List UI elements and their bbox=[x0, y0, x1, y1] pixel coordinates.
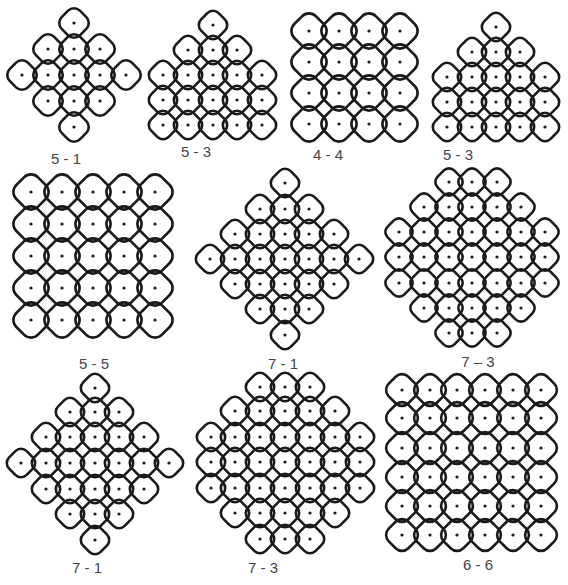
kolam-dot bbox=[495, 255, 498, 258]
kolam-pattern bbox=[145, 7, 279, 142]
kolam-dot bbox=[428, 446, 431, 449]
kolam-dot bbox=[211, 73, 214, 76]
kolam-dot bbox=[400, 504, 403, 507]
kolam-dot bbox=[494, 75, 497, 78]
kolam-dot bbox=[233, 409, 236, 412]
kolam-dot bbox=[29, 286, 32, 289]
kolam-dot bbox=[29, 318, 32, 321]
kolam-dot bbox=[68, 410, 71, 413]
kolam-dot bbox=[153, 286, 156, 289]
kolam-dot bbox=[511, 504, 514, 507]
kolam-dot bbox=[186, 48, 189, 51]
kolam-dot bbox=[483, 504, 486, 507]
kolam-dot bbox=[400, 388, 403, 391]
kolam-dot bbox=[44, 461, 47, 464]
kolam-dot bbox=[93, 512, 96, 515]
kolam-dot bbox=[29, 222, 32, 225]
kolam-dot bbox=[46, 47, 49, 50]
kolam-dot bbox=[117, 435, 120, 438]
kolam-dot bbox=[186, 98, 189, 101]
kolam-dot bbox=[445, 125, 448, 128]
kolam-dot bbox=[153, 318, 156, 321]
kolam-dot bbox=[447, 281, 450, 284]
kolam-dot bbox=[91, 254, 94, 257]
kolam-dot bbox=[46, 73, 49, 76]
kolam-label: 5 - 3 bbox=[443, 146, 473, 163]
kolam-dot bbox=[495, 230, 498, 233]
kolam-dot bbox=[46, 99, 49, 102]
kolam-dot bbox=[308, 435, 311, 438]
kolam-dot bbox=[307, 232, 310, 235]
kolam-label: 6 - 6 bbox=[463, 556, 493, 573]
kolam-dot bbox=[93, 487, 96, 490]
kolam-dot bbox=[519, 306, 522, 309]
kolam-dot bbox=[235, 48, 238, 51]
kolam-dot bbox=[543, 281, 546, 284]
kolam-dot bbox=[470, 75, 473, 78]
kolam-dot bbox=[117, 487, 120, 490]
kolam-dot bbox=[483, 446, 486, 449]
kolam-dot bbox=[333, 409, 336, 412]
kolam-dot bbox=[258, 435, 261, 438]
kolam-dot bbox=[495, 331, 498, 334]
kolam-dot bbox=[186, 73, 189, 76]
kolam-dot bbox=[233, 282, 236, 285]
kolam-dot bbox=[428, 504, 431, 507]
kolam-dot bbox=[93, 538, 96, 541]
kolam-dot bbox=[283, 511, 286, 514]
kolam-dot bbox=[258, 257, 261, 260]
kolam-dot bbox=[308, 537, 311, 540]
kolam-dot bbox=[400, 533, 403, 536]
kolam-dot bbox=[543, 125, 546, 128]
kolam-dot bbox=[518, 100, 521, 103]
kolam-dot bbox=[29, 190, 32, 193]
kolam-dot bbox=[428, 388, 431, 391]
kolam-dot bbox=[398, 91, 401, 94]
kolam-dot bbox=[211, 23, 214, 26]
kolam-pattern bbox=[4, 5, 144, 145]
kolam-dot bbox=[122, 318, 125, 321]
kolam-dot bbox=[153, 222, 156, 225]
kolam-dot bbox=[367, 60, 370, 63]
kolam-dot bbox=[29, 254, 32, 257]
kolam-dot bbox=[337, 122, 340, 125]
kolam-dot bbox=[307, 282, 310, 285]
kolam-dot bbox=[186, 123, 189, 126]
kolam-dot bbox=[142, 435, 145, 438]
kolam-dot bbox=[518, 75, 521, 78]
kolam-dot bbox=[455, 388, 458, 391]
kolam-dot bbox=[283, 385, 286, 388]
kolam-dot bbox=[511, 533, 514, 536]
kolam-dot bbox=[518, 125, 521, 128]
kolam-dot bbox=[142, 487, 145, 490]
kolam-dot bbox=[153, 254, 156, 257]
kolam-dot bbox=[483, 416, 486, 419]
kolam-dot bbox=[494, 25, 497, 28]
kolam-dot bbox=[161, 98, 164, 101]
kolam-dot bbox=[68, 487, 71, 490]
kolam-dot bbox=[308, 460, 311, 463]
kolam-dot bbox=[337, 60, 340, 63]
kolam-dot bbox=[519, 230, 522, 233]
kolam-dot bbox=[397, 255, 400, 258]
kolam-dot bbox=[117, 461, 120, 464]
kolam-dot bbox=[258, 511, 261, 514]
kolam-dot bbox=[260, 73, 263, 76]
kolam-dot bbox=[233, 486, 236, 489]
kolam-pattern bbox=[3, 371, 186, 558]
kolam-dot bbox=[72, 73, 75, 76]
kolam-dot bbox=[307, 91, 310, 94]
kolam-dot bbox=[494, 50, 497, 53]
kolam-dot bbox=[358, 435, 361, 438]
kolam-dot bbox=[60, 254, 63, 257]
kolam-dot bbox=[483, 388, 486, 391]
kolam-dot bbox=[455, 416, 458, 419]
kolam-dot bbox=[447, 180, 450, 183]
kolam-dot bbox=[258, 486, 261, 489]
kolam-dot bbox=[470, 230, 473, 233]
kolam-dot bbox=[543, 230, 546, 233]
kolam-dot bbox=[367, 29, 370, 32]
kolam-dot bbox=[447, 255, 450, 258]
kolam-dot bbox=[258, 207, 261, 210]
kolam-dot bbox=[358, 486, 361, 489]
